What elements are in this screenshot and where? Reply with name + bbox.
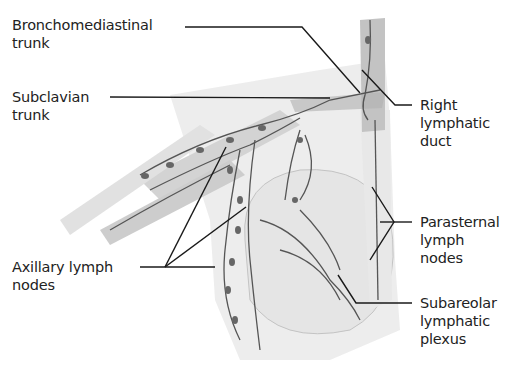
label-axillary-lymph-nodes: Axillary lymph nodes: [12, 258, 113, 294]
label-bronchomediastinal-trunk: Bronchomediastinal trunk: [12, 16, 153, 52]
chest-tissue: [60, 18, 400, 360]
label-right-lymphatic-duct: Right lymphatic duct: [420, 96, 490, 150]
label-subareolar-lymphatic-plexus: Subareolar lymphatic plexus: [420, 294, 497, 348]
label-subclavian-trunk: Subclavian trunk: [12, 88, 89, 124]
label-parasternal-lymph-nodes: Parasternal lymph nodes: [420, 213, 500, 267]
anatomy-figure: Bronchomediastinal trunk Subclavian trun…: [0, 0, 521, 373]
